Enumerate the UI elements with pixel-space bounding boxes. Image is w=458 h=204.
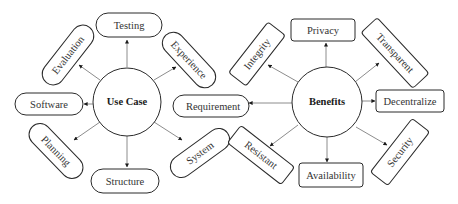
node-testing-label: Testing bbox=[114, 20, 146, 31]
node-structure: Structure bbox=[91, 169, 159, 193]
node-availability: Availability bbox=[299, 163, 363, 187]
node-integrity: Integrity bbox=[229, 22, 286, 86]
node-transparent: Transparent bbox=[361, 18, 429, 89]
node-requirement: Requirement bbox=[173, 95, 249, 117]
node-planning: Planning bbox=[24, 119, 87, 183]
edge-benefits-security bbox=[356, 127, 387, 145]
node-requirement-label: Requirement bbox=[186, 101, 240, 112]
node-decentralize: Decentralize bbox=[376, 90, 444, 112]
node-software: Software bbox=[15, 93, 83, 115]
benefits-hub: Benefits bbox=[292, 67, 362, 137]
benefits-cluster: Benefits Privacy Transparent Decentraliz… bbox=[227, 18, 444, 187]
edge-usecase-planning bbox=[74, 122, 100, 140]
node-system: System bbox=[166, 124, 234, 182]
node-software-label: Software bbox=[30, 99, 68, 110]
edge-usecase-experience bbox=[154, 67, 176, 80]
node-privacy-label: Privacy bbox=[307, 25, 340, 36]
edge-benefits-integrity bbox=[268, 65, 298, 82]
edge-usecase-system bbox=[154, 122, 182, 140]
use-case-hub-label: Use Case bbox=[107, 96, 148, 107]
node-availability-label: Availability bbox=[306, 170, 356, 181]
node-resistant: Resistant bbox=[227, 125, 294, 184]
edge-benefits-resistant bbox=[270, 125, 298, 146]
use-case-benefits-diagram: Use Case Testing Experience Requirement … bbox=[0, 0, 458, 204]
node-evaluation: Evaluation bbox=[38, 21, 98, 90]
edge-usecase-evaluation bbox=[79, 65, 100, 80]
use-case-cluster: Use Case Testing Experience Requirement … bbox=[15, 13, 249, 193]
node-experience: Experience bbox=[158, 28, 220, 93]
node-decentralize-label: Decentralize bbox=[383, 96, 436, 107]
node-structure-label: Structure bbox=[106, 176, 145, 187]
edge-benefits-transparent bbox=[355, 63, 379, 82]
benefits-hub-label: Benefits bbox=[309, 96, 345, 107]
node-privacy: Privacy bbox=[291, 19, 355, 41]
node-testing: Testing bbox=[96, 13, 162, 37]
node-security: Security bbox=[370, 118, 429, 185]
use-case-hub: Use Case bbox=[93, 68, 161, 136]
